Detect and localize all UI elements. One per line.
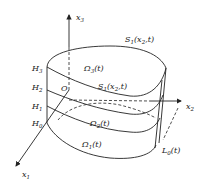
top-surface-outline	[47, 46, 166, 68]
region-label-omega3: Ω3(t)	[83, 64, 104, 74]
surface-label-inner: S1(x2,t)	[98, 82, 127, 92]
boundary-label-l0: L0(t)	[161, 146, 180, 156]
svg-text:x3: x3	[76, 13, 85, 23]
height-label-h1: H1	[31, 102, 42, 112]
right-edge-inner	[155, 80, 162, 148]
svg-text:x1: x1	[22, 170, 30, 180]
x2-axis: x2	[150, 101, 195, 112]
surface-label-top: S1(x2,t)	[125, 35, 154, 45]
right-edge-outer	[159, 68, 166, 143]
origin-label: O	[61, 84, 68, 93]
height-label-h2: H2	[31, 83, 43, 93]
x3-axis: x3	[69, 13, 85, 90]
height-label-h3: H3	[31, 64, 43, 74]
height-label-h0: H0	[31, 119, 43, 129]
x1-axis: x1	[16, 90, 69, 180]
region-label-omega2: Ω2(t)	[89, 119, 110, 129]
layer-curve-h2	[47, 90, 163, 114]
svg-text:x2: x2	[186, 102, 195, 112]
layered-domain-diagram: x3 x2 x1 O H3 H2 H1 H0 Ω3(t) Ω2(t) Ω1(t)…	[0, 0, 205, 189]
region-label-omega1: Ω1(t)	[81, 140, 102, 150]
